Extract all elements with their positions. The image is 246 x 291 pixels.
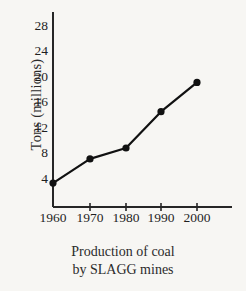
data-point: [193, 79, 200, 86]
caption-line-1: Production of coal: [0, 243, 246, 261]
caption-line-2: by SLAGG mines: [0, 261, 246, 279]
x-tick-label: 2000: [176, 211, 218, 225]
data-point: [157, 108, 164, 115]
data-point: [49, 180, 56, 187]
data-point: [86, 155, 93, 162]
chart-figure: Tons (millions) 28 24 20 16 12 8 4 1960 …: [0, 0, 246, 291]
data-line: [53, 82, 197, 183]
data-point: [122, 144, 129, 151]
x-tick-label: 1960: [32, 211, 74, 225]
chart-caption: Production of coal by SLAGG mines: [0, 243, 246, 279]
x-axis-tick-labels: 1960 1970 1980 1990 2000: [0, 211, 246, 231]
